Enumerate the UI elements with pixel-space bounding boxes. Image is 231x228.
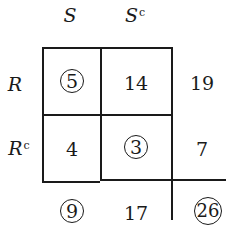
row-total-rc: 7 [180,138,224,160]
cell-value: 14 [124,72,148,94]
circled-value: 9 [60,199,84,223]
circled-value: 3 [124,135,148,159]
row-total-r: 19 [180,72,224,94]
column-header-s-label: S [63,4,76,26]
row-header-r-label: R [8,73,22,95]
row-header-r: R [2,73,28,95]
complement-superscript: c [139,6,145,19]
table-border-bottom [42,181,100,183]
cell-value: 4 [66,138,78,160]
circled-value: 5 [60,69,84,93]
circled-value: 26 [194,197,222,225]
column-header-s: S [55,4,85,26]
cell-r-s: 5 [46,69,98,93]
complement-superscript: c [24,139,30,152]
cell-r-sc: 14 [102,72,170,94]
cell-rc-sc: 3 [102,135,170,159]
column-total-s: 9 [46,199,98,223]
table-column-divider [100,47,102,181]
column-header-sc-label: S [125,4,138,26]
table-border-top [42,47,172,49]
total-value: 17 [124,202,148,224]
row-header-r-complement: Rc [2,137,36,159]
table-border-left [42,47,44,182]
column-total-sc: 17 [104,202,168,224]
column-header-s-complement: Sc [118,4,152,26]
cell-rc-s: 4 [46,138,98,160]
table-border-bottom-right [100,179,226,181]
row-header-rc-label: R [8,137,22,159]
table-border-middle [42,114,172,116]
table-border-right [171,47,173,220]
total-value: 19 [190,72,214,94]
total-value: 7 [196,138,208,160]
grand-total: 26 [186,197,230,225]
